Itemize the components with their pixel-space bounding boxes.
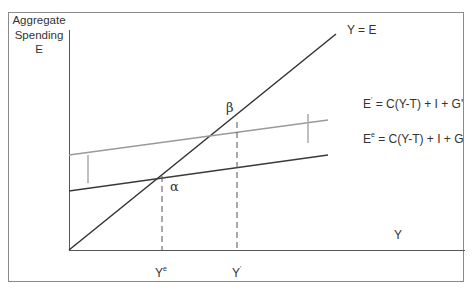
original-label-base: E	[363, 132, 371, 146]
shifted-label-base: E	[363, 97, 371, 111]
alpha-point-label: α	[170, 180, 179, 194]
original-line-label: Ee = C(Y-T) + I + G	[363, 128, 464, 146]
forty-five-degree-line	[69, 34, 336, 250]
original-label-rest: = C(Y-T) + I + G	[375, 132, 464, 146]
y-equilibrium-tick: Ye	[155, 262, 167, 280]
forty-five-line-label: Y = E	[347, 23, 376, 37]
shifted-spending-line	[69, 120, 328, 155]
y-axis-label-line2: Spending	[8, 28, 70, 43]
y-axis-label-line1: Aggregate	[8, 13, 70, 28]
original-spending-line	[69, 155, 328, 191]
x-axis-label: Y	[394, 228, 402, 242]
yp-sup: '	[240, 265, 241, 272]
y-axis-label: Aggregate Spending E	[8, 13, 70, 57]
beta-point-label: β	[226, 101, 234, 115]
keynesian-cross-diagram	[0, 0, 472, 293]
y-axis-label-line3: E	[8, 42, 70, 57]
ye-sup: e	[163, 265, 167, 272]
shifted-label-rest: = C(Y-T) + I + G'	[372, 97, 463, 111]
shifted-line-label: E' = C(Y-T) + I + G'	[363, 93, 463, 111]
yp-base: Y	[232, 266, 240, 280]
ye-base: Y	[155, 266, 163, 280]
y-prime-tick: Y'	[232, 262, 241, 280]
